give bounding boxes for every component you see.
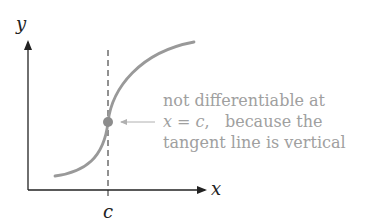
c-var: c xyxy=(196,112,205,131)
diagram-canvas: y x c not differentiable at x = c, becau… xyxy=(0,0,390,223)
annotation-line-3: tangent line is vertical xyxy=(163,133,346,152)
y-axis-label: y xyxy=(15,13,27,34)
x-var: x xyxy=(163,112,172,131)
x-axis-label: x xyxy=(211,178,221,199)
annotation-line-2: x = c, because the xyxy=(163,112,322,131)
non-differentiable-point xyxy=(103,117,113,127)
because-text: , because the xyxy=(205,112,323,131)
equals: = xyxy=(172,112,196,131)
c-label: c xyxy=(103,201,113,222)
annotation-line-1: not differentiable at xyxy=(163,91,326,110)
